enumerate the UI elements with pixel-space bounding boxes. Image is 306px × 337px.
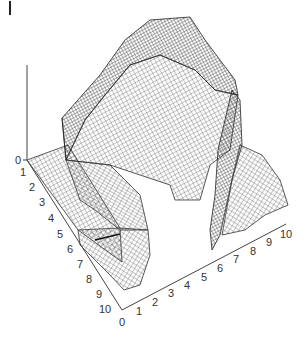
x-tick-4: 4 — [184, 279, 190, 291]
z-tick-0: 0 — [15, 154, 21, 166]
y-tick-1: 1 — [20, 166, 26, 178]
x-tick-1: 1 — [136, 305, 142, 317]
y-tick-4: 4 — [48, 212, 54, 224]
y-tick-10: 10 — [99, 303, 111, 315]
z-axis: 0 — [15, 65, 27, 166]
y-tick-2: 2 — [29, 181, 35, 193]
x-tick-3: 3 — [168, 287, 174, 299]
surface-plot: 0 1 2 3 4 5 6 7 8 9 10 0 1 2 3 4 5 6 7 8… — [0, 0, 306, 337]
x-tick-6: 6 — [217, 262, 223, 274]
x-tick-10: 10 — [280, 228, 292, 240]
x-tick-5: 5 — [201, 271, 207, 283]
y-tick-6: 6 — [67, 243, 73, 255]
y-tick-9: 9 — [96, 288, 102, 300]
y-tick-8: 8 — [86, 273, 92, 285]
y-tick-7: 7 — [77, 258, 83, 270]
x-tick-0: 0 — [119, 316, 125, 328]
y-tick-5: 5 — [57, 228, 63, 240]
x-tick-2: 2 — [152, 296, 158, 308]
x-tick-7: 7 — [233, 253, 239, 265]
x-tick-8: 8 — [250, 245, 256, 257]
y-tick-3: 3 — [39, 196, 45, 208]
x-tick-9: 9 — [266, 236, 272, 248]
